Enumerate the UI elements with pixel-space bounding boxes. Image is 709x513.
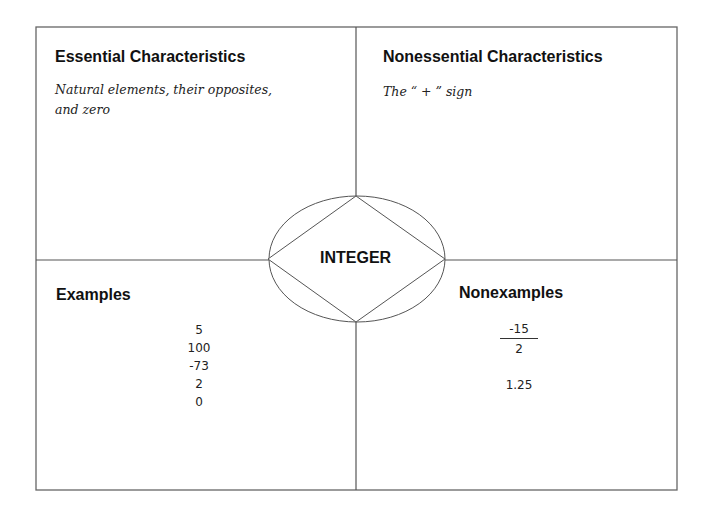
example-item: -73 — [169, 358, 229, 376]
nonexamples-title: Nonexamples — [459, 284, 563, 302]
fraction-denominator: 2 — [489, 342, 549, 356]
nonexample-fraction: -15 2 — [489, 322, 549, 356]
essential-line-2: and zero — [55, 100, 272, 120]
center-term: INTEGER — [320, 249, 391, 267]
nonessential-characteristics-title: Nonessential Characteristics — [383, 48, 603, 66]
essential-characteristics-text: Natural elements, their opposites, and z… — [55, 80, 272, 120]
essential-characteristics-title: Essential Characteristics — [55, 48, 245, 66]
example-item: 100 — [169, 340, 229, 358]
fraction-bar — [500, 338, 538, 339]
essential-line-1: Natural elements, their opposites, — [55, 80, 272, 100]
example-item: 2 — [169, 376, 229, 394]
fraction-numerator: -15 — [489, 322, 549, 336]
nonexample-item: 1.25 — [489, 377, 549, 395]
example-item: 0 — [169, 394, 229, 412]
examples-title: Examples — [56, 286, 131, 304]
nonessential-characteristics-text: The “ + ” sign — [383, 82, 472, 102]
example-item: 5 — [169, 322, 229, 340]
